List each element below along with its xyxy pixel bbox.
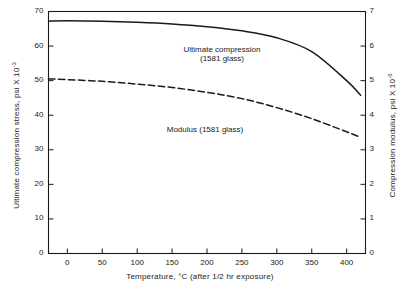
y-axis-left-tick-label: 10 [22,213,44,222]
y-axis-left-title: Ultimate compression stress, psi X 10-3 [11,25,22,245]
x-axis-tick-label: 150 [157,258,187,267]
y-axis-left-title-text: Ultimate compression stress, psi X 10 [12,68,21,209]
x-axis-tick-label: 250 [227,258,257,267]
y-axis-right-title: Compression modulus, psi X 10-6 [387,25,398,245]
x-axis-tick-label: 0 [52,258,82,267]
y-axis-right-tick-label: 5 [370,75,392,84]
x-axis-tick-label: 400 [332,258,362,267]
x-axis-tick-label: 200 [192,258,222,267]
y-axis-left-tick-label: 0 [22,248,44,257]
y-axis-right-tick-label: 6 [370,41,392,50]
x-axis-tick-label: 100 [122,258,152,267]
y-axis-right-tick-label: 0 [370,248,392,257]
y-axis-left-tick-label: 20 [22,179,44,188]
y-axis-left-tick-label: 60 [22,41,44,50]
x-axis-title: Temperature, °C (after 1/2 hr exposure) [0,272,400,281]
ultimate-compression-label: Ultimate compression(1581 glass) [152,45,292,63]
y-axis-left-tick-label: 40 [22,110,44,119]
figure-container: Ultimate compression stress, psi X 10-3 … [0,0,400,296]
y-axis-left-tick-label: 50 [22,75,44,84]
modulus-label-line1: Modulus (1581 glass) [135,125,275,134]
y-axis-right-tick-label: 4 [370,110,392,119]
x-axis-tick-label: 350 [297,258,327,267]
y-axis-right-tick-label: 1 [370,213,392,222]
y-axis-left-tick-label: 30 [22,144,44,153]
y-axis-right-tick-label: 2 [370,179,392,188]
ultimate-compression-label-line2: (1581 glass) [152,54,292,63]
y-axis-left-exponent: -3 [11,62,17,68]
y-axis-right-tick-label: 7 [370,6,392,15]
y-axis-right-tick-label: 3 [370,144,392,153]
y-axis-left-tick-label: 70 [22,6,44,15]
x-axis-tick-label: 300 [262,258,292,267]
modulus-label: Modulus (1581 glass) [135,125,275,134]
ultimate-compression-label-line1: Ultimate compression [152,45,292,54]
x-axis-tick-label: 50 [87,258,117,267]
